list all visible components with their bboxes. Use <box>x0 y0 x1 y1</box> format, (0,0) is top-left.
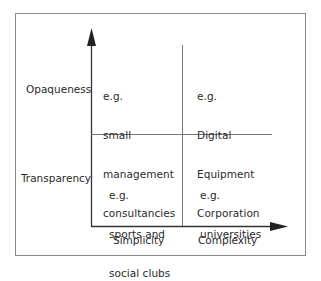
quadrant-prefix: e.g. <box>109 189 170 202</box>
y-axis-high-label: Opaqueness <box>26 83 91 96</box>
quadrant-line: small <box>103 129 175 142</box>
quadrant-line: social clubs <box>109 267 170 280</box>
x-axis-arrow-icon <box>270 222 288 231</box>
y-axis-low-label: Transparency <box>21 172 91 185</box>
quadrant-prefix: e.g. <box>197 90 260 103</box>
quadrant-line: sports and <box>109 228 170 241</box>
quadrant-prefix: e.g. <box>103 90 175 103</box>
quadrant-prefix: e.g. <box>200 189 261 202</box>
y-axis-arrow-icon <box>87 28 96 46</box>
quadrant-line: Digital <box>197 129 260 142</box>
quadrant-bottom-left: e.g. sports and social clubs <box>109 163 170 281</box>
quadrant-line: universities <box>200 228 261 241</box>
quadrant-bottom-right: e.g. universities <box>200 163 261 254</box>
